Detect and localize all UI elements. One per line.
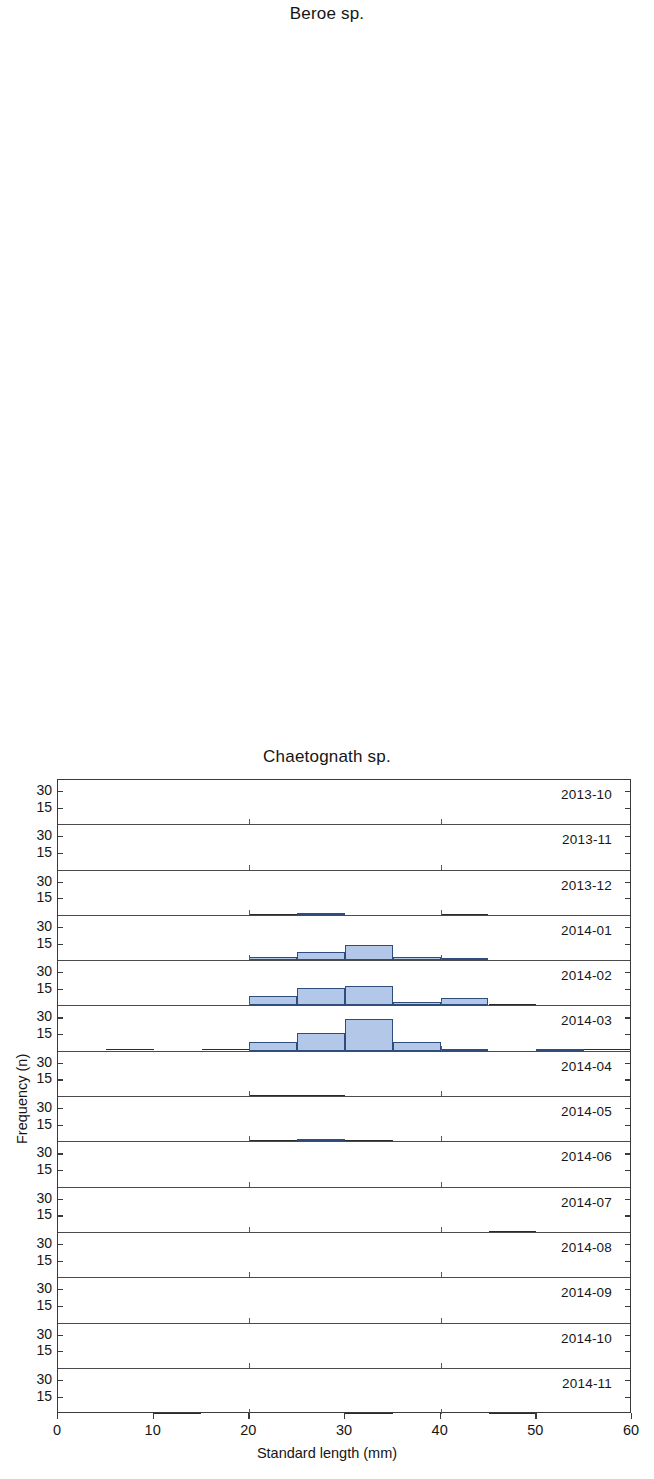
y-tick-label: 30 bbox=[36, 1055, 52, 1069]
y-tick-mark bbox=[57, 1125, 63, 1126]
y-tick-label: 15 bbox=[36, 1207, 52, 1221]
y-tick-mark bbox=[57, 808, 63, 809]
x-tick-inner bbox=[249, 865, 250, 870]
x-tick-inner bbox=[441, 1272, 442, 1277]
histogram-bar bbox=[584, 1049, 630, 1050]
x-axis-title-chaetognath: Standard length (mm) bbox=[0, 1445, 654, 1461]
x-tick-label: 40 bbox=[432, 1422, 448, 1438]
histogram-bar bbox=[441, 1049, 489, 1051]
y-tick-label: 30 bbox=[36, 1009, 52, 1023]
x-tick-inner bbox=[441, 1227, 442, 1232]
x-tick-inner bbox=[249, 1363, 250, 1368]
y-tick-label: 30 bbox=[36, 874, 52, 888]
x-tick-mark bbox=[248, 1413, 249, 1419]
y-tick-label: 30 bbox=[36, 1145, 52, 1159]
y-tick-label: 15 bbox=[36, 1298, 52, 1312]
panel-plot-area bbox=[58, 780, 630, 824]
y-tick-label: 30 bbox=[36, 1100, 52, 1114]
x-tick-label: 0 bbox=[53, 1422, 61, 1438]
panel-chaetognath-2014-01: 2014-01 bbox=[58, 916, 630, 961]
y-tick-label: 15 bbox=[36, 1343, 52, 1357]
panel-chaetognath-2014-11: 2014-11 bbox=[58, 1369, 630, 1414]
y-tick-mark-right bbox=[625, 808, 631, 809]
x-tick-inner bbox=[249, 1272, 250, 1277]
y-tick-label: 15 bbox=[36, 800, 52, 814]
y-tick-mark-right bbox=[625, 1034, 631, 1035]
y-tick-mark bbox=[57, 1289, 63, 1290]
x-tick-inner bbox=[441, 1046, 442, 1051]
histogram-bar bbox=[297, 1095, 345, 1096]
panel-month-label: 2014-08 bbox=[561, 1240, 612, 1255]
histogram-bar bbox=[249, 914, 297, 915]
panel-chaetognath-2013-10: 2013-10 bbox=[58, 780, 630, 825]
y-tick-mark-right bbox=[625, 1108, 631, 1109]
x-tick-inner bbox=[441, 1318, 442, 1323]
x-tick-inner bbox=[441, 819, 442, 824]
histogram-bar bbox=[297, 1033, 345, 1051]
y-tick-mark-right bbox=[625, 791, 631, 792]
histogram-bar bbox=[202, 1049, 250, 1050]
x-tick-mark bbox=[344, 1413, 345, 1419]
y-tick-label: 15 bbox=[36, 845, 52, 859]
panel-month-label: 2013-10 bbox=[561, 787, 612, 802]
x-tick-label: 20 bbox=[240, 1422, 256, 1438]
histogram-bar bbox=[345, 945, 393, 961]
x-tick-inner bbox=[441, 1136, 442, 1141]
y-tick-label: 15 bbox=[36, 890, 52, 904]
panel-chaetognath-2013-12: 2013-12 bbox=[58, 871, 630, 916]
y-tick-label: 15 bbox=[36, 1026, 52, 1040]
panel-plot-area bbox=[58, 871, 630, 915]
panel-chaetognath-2014-10: 2014-10 bbox=[58, 1324, 630, 1369]
panel-plot-area bbox=[58, 1142, 630, 1186]
panel-plot-area bbox=[58, 1006, 630, 1050]
panel-month-label: 2014-11 bbox=[562, 1376, 612, 1391]
y-tick-mark bbox=[57, 1170, 63, 1171]
histogram-bar bbox=[249, 1095, 297, 1096]
y-tick-label: 15 bbox=[36, 1071, 52, 1085]
panel-month-label: 2014-03 bbox=[561, 1013, 612, 1028]
y-tick-mark-right bbox=[625, 1125, 631, 1126]
histogram-bar bbox=[249, 957, 297, 960]
panel-month-label: 2014-04 bbox=[561, 1059, 612, 1074]
y-tick-mark bbox=[57, 1034, 63, 1035]
y-tick-label: 30 bbox=[36, 1281, 52, 1295]
panel-plot-area bbox=[58, 1369, 630, 1414]
panel-plot-area bbox=[58, 961, 630, 1005]
y-tick-mark bbox=[57, 1351, 63, 1352]
histogram-bar bbox=[297, 913, 345, 915]
x-tick-inner bbox=[441, 1363, 442, 1368]
y-tick-mark-right bbox=[625, 1063, 631, 1064]
histogram-bar bbox=[393, 1002, 441, 1005]
panel-plot-area bbox=[58, 1097, 630, 1141]
x-tick-inner bbox=[249, 1046, 250, 1051]
figure-beroe: Beroe sp. 2013-102013-112013-122014-0120… bbox=[0, 0, 654, 735]
x-tick-inner bbox=[249, 1318, 250, 1323]
histogram-bar bbox=[297, 952, 345, 960]
y-tick-label: 30 bbox=[36, 1191, 52, 1205]
y-tick-mark bbox=[57, 1397, 63, 1398]
y-tick-mark bbox=[57, 1153, 63, 1154]
y-tick-label: 30 bbox=[36, 783, 52, 797]
panel-plot-area bbox=[58, 825, 630, 869]
y-tick-mark bbox=[57, 1380, 63, 1381]
x-tick-label: 30 bbox=[336, 1422, 352, 1438]
y-tick-mark-right bbox=[625, 1335, 631, 1336]
y-tick-label: 30 bbox=[36, 1372, 52, 1386]
y-tick-mark bbox=[57, 972, 63, 973]
x-tick-mark bbox=[440, 1413, 441, 1419]
histogram-bar bbox=[441, 998, 489, 1006]
panel-plot-area bbox=[58, 1324, 630, 1368]
panel-chaetognath-2014-06: 2014-06 bbox=[58, 1142, 630, 1187]
y-tick-mark-right bbox=[625, 898, 631, 899]
panel-chaetognath-2014-05: 2014-05 bbox=[58, 1097, 630, 1142]
y-tick-mark-right bbox=[625, 944, 631, 945]
panel-chaetognath-2013-11: 2013-11 bbox=[58, 825, 630, 870]
y-tick-mark bbox=[57, 1335, 63, 1336]
histogram-bar bbox=[393, 957, 441, 960]
x-tick-mark bbox=[57, 1413, 58, 1419]
histogram-bar bbox=[441, 914, 489, 915]
y-tick-mark bbox=[57, 1108, 63, 1109]
x-tick-inner bbox=[441, 1091, 442, 1096]
y-tick-label: 30 bbox=[36, 828, 52, 842]
y-tick-label: 15 bbox=[36, 1389, 52, 1403]
